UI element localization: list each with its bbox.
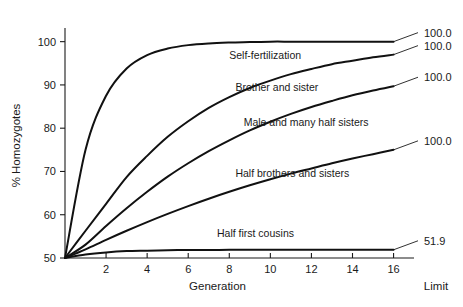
x-tick-label: 16 — [387, 263, 399, 275]
limit-value-0: 100.0 — [424, 27, 452, 39]
series-label-1: Brother and sister — [235, 81, 318, 93]
y-tick-label: 100 — [38, 36, 56, 48]
series-label-0: Self-fertilization — [229, 49, 301, 61]
limit-value-4: 51.9 — [424, 235, 445, 247]
y-axis-title: % Homozygotes — [10, 103, 22, 187]
x-tick-label: 8 — [226, 263, 232, 275]
x-axis-title: Generation — [189, 280, 246, 292]
limit-leader-line-4 — [394, 241, 418, 250]
x-tick-label: 2 — [103, 263, 109, 275]
limit-leader-line-1 — [394, 46, 418, 55]
limit-value-3: 100.0 — [424, 135, 452, 147]
x-tick-label: 6 — [185, 263, 191, 275]
series-curve-0 — [65, 42, 394, 258]
limit-value-2: 100.0 — [424, 71, 452, 83]
x-tick-label: 10 — [264, 263, 276, 275]
series-label-3: Half brothers and sisters — [235, 167, 349, 179]
limit-leader-line-0 — [394, 33, 418, 42]
x-tick-label: 12 — [305, 263, 317, 275]
limit-column-header: Limit — [424, 280, 449, 292]
y-tick-label: 50 — [44, 252, 56, 264]
y-tick-label: 80 — [44, 122, 56, 134]
x-tick-label: 14 — [346, 263, 358, 275]
chart-figure: 5060708090100246810121416Generation% Hom… — [0, 0, 463, 307]
inbreeding-homozygosity-line-chart: 5060708090100246810121416Generation% Hom… — [0, 0, 463, 307]
y-tick-label: 60 — [44, 209, 56, 221]
limit-value-1: 100.0 — [424, 40, 452, 52]
limit-leader-line-2 — [394, 77, 418, 86]
y-tick-label: 70 — [44, 165, 56, 177]
x-tick-label: 4 — [144, 263, 150, 275]
series-label-2: Male and many half sisters — [244, 116, 369, 128]
series-label-4: Half first cousins — [217, 227, 294, 239]
y-tick-label: 90 — [44, 79, 56, 91]
limit-leader-line-3 — [394, 141, 418, 150]
